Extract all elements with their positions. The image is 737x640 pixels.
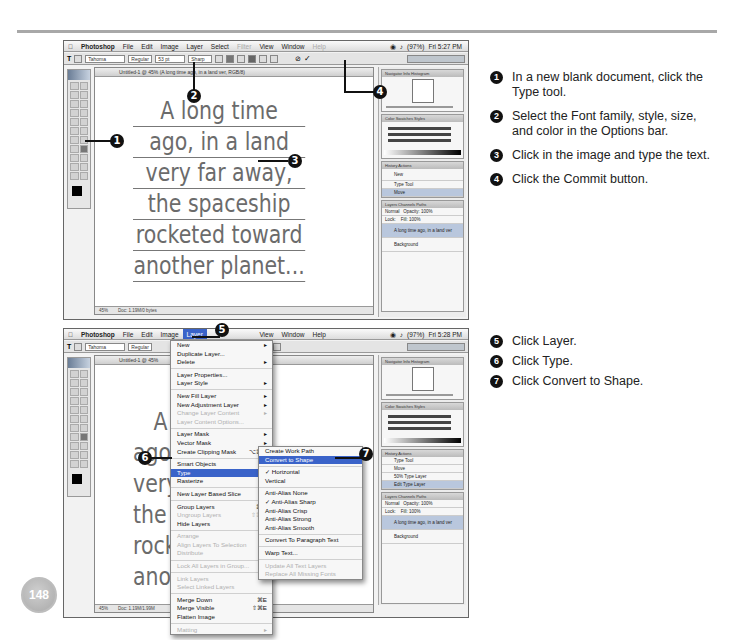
lasso-tool[interactable] [70, 91, 79, 99]
clock[interactable]: Fri 5:27 PM [426, 41, 464, 51]
navigator-tabs[interactable]: Navigator Info Histogram [382, 358, 463, 365]
battery-status[interactable]: (97%) [405, 329, 426, 339]
hand-tool[interactable] [70, 172, 79, 180]
canvas-text[interactable]: A long time ago, in a land very far away… [133, 96, 305, 282]
wifi-icon[interactable]: ◉ [388, 329, 398, 339]
hand-tool[interactable] [70, 460, 79, 468]
green-slider[interactable] [388, 421, 451, 424]
path-selection-tool[interactable] [70, 433, 79, 441]
type-submenu-item-anti-alias-strong[interactable]: Anti-Alias Strong [259, 515, 362, 524]
zoom-slider[interactable] [386, 106, 453, 108]
layer-menu-item-matting[interactable]: Matting▸ [171, 626, 272, 635]
crop-tool[interactable] [70, 388, 79, 396]
layer-menu-item-layer-mask[interactable]: Layer Mask▸ [171, 430, 272, 439]
shape-tool[interactable] [80, 442, 89, 450]
font-size-field[interactable]: 53 pt [155, 55, 185, 63]
type-tool[interactable] [80, 145, 89, 153]
brush-tool[interactable] [80, 109, 89, 117]
menu-edit[interactable]: Edit [137, 329, 156, 339]
volume-icon[interactable]: ♪ [398, 41, 405, 51]
orientation-toggle[interactable] [74, 343, 82, 351]
layer-menu-item-delete[interactable]: Delete▸ [171, 358, 272, 367]
menu-view[interactable]: View [255, 329, 277, 339]
menu-edit[interactable]: Edit [137, 41, 156, 51]
layer-menu-item-ungroup-layers[interactable]: Ungroup Layers⇧⌘G [171, 511, 272, 520]
wifi-icon[interactable]: ◉ [388, 41, 398, 51]
character-palette-button[interactable] [273, 343, 281, 351]
eraser-tool[interactable] [70, 127, 79, 135]
layers-tabs[interactable]: Layers Channels Paths [382, 201, 463, 208]
align-center-button[interactable] [226, 55, 234, 63]
type-submenu-item-anti-alias-crisp[interactable]: Anti-Alias Crisp [259, 507, 362, 516]
type-tool-preset-icon[interactable]: T [67, 343, 71, 350]
color-tabs[interactable]: Color Swatches Styles [382, 403, 463, 410]
type-tool-preset-icon[interactable]: T [67, 55, 71, 62]
anti-alias-field[interactable]: Sharp [188, 55, 212, 63]
eyedropper-tool[interactable] [80, 451, 89, 459]
layer-menu-item-select-linked-layers[interactable]: Select Linked Layers [171, 583, 272, 592]
layer-menu-item-smart-objects[interactable]: Smart Objects▸ [171, 460, 272, 469]
menu-help[interactable]: Help [309, 41, 330, 51]
navigator-tabs[interactable]: Navigator Info Histogram [382, 70, 463, 77]
type-submenu-item-create-work-path[interactable]: Create Work Path [259, 447, 362, 456]
healing-tool[interactable] [70, 397, 79, 405]
type-submenu-item-anti-alias-sharp[interactable]: ✓ Anti-Alias Sharp [259, 498, 362, 507]
blue-slider[interactable] [388, 139, 451, 142]
font-family-field[interactable]: Tahoma [85, 343, 125, 351]
menu-image[interactable]: Image [157, 41, 183, 51]
layer-menu-item-duplicate-layer[interactable]: Duplicate Layer... [171, 350, 272, 359]
menu-file[interactable]: File [119, 41, 137, 51]
history-item[interactable]: Type Tool [382, 457, 463, 465]
align-right-button[interactable] [237, 55, 245, 63]
history-item[interactable]: Edit Type Layer [382, 481, 463, 489]
layer-menu-item-type[interactable]: Type▸ [171, 469, 272, 478]
menu-filter[interactable]: Filter [233, 41, 255, 51]
layer-menu-item-layer-content-options[interactable]: Layer Content Options... [171, 418, 272, 427]
history-brush-tool[interactable] [80, 406, 89, 414]
orientation-toggle[interactable] [74, 55, 82, 63]
crop-tool[interactable] [70, 100, 79, 108]
marquee-tool[interactable] [80, 82, 89, 90]
magic-wand-tool[interactable] [80, 379, 89, 387]
menu-window[interactable]: Window [277, 329, 308, 339]
type-submenu-item-anti-alias-smooth[interactable]: Anti-Alias Smooth [259, 524, 362, 533]
history-item[interactable]: Move [382, 189, 463, 197]
layer-menu-item-new[interactable]: New▸ [171, 341, 272, 350]
character-palette-button[interactable] [270, 55, 278, 63]
layer-menu-item-create-clipping-mask[interactable]: Create Clipping Mask⌥⌘G [171, 448, 272, 457]
color-ramp[interactable] [384, 438, 461, 443]
layer-row-background[interactable]: Background [382, 238, 463, 252]
palette-well[interactable] [407, 55, 465, 63]
lasso-tool[interactable] [70, 379, 79, 387]
history-item[interactable]: Type Tool [382, 181, 463, 189]
shape-tool[interactable] [80, 154, 89, 162]
move-tool[interactable] [70, 370, 79, 378]
history-tabs[interactable]: History Actions [382, 450, 463, 457]
type-submenu-item-warp-text[interactable]: Warp Text... [259, 549, 362, 558]
layer-menu-item-distribute[interactable]: Distribute▸ [171, 549, 272, 558]
dodge-tool[interactable] [80, 424, 89, 432]
layer-menu-item-new-fill-layer[interactable]: New Fill Layer▸ [171, 392, 272, 401]
menu-view[interactable]: View [255, 41, 277, 51]
volume-icon[interactable]: ♪ [398, 329, 405, 339]
align-left-button[interactable] [215, 55, 223, 63]
eraser-tool[interactable] [70, 415, 79, 423]
menu-help[interactable]: Help [309, 329, 330, 339]
eyedropper-tool[interactable] [80, 163, 89, 171]
zoom-level[interactable]: 45% [99, 308, 108, 313]
foreground-color-swatch[interactable] [72, 186, 82, 196]
pen-tool[interactable] [70, 442, 79, 450]
move-tool[interactable] [70, 82, 79, 90]
type-submenu-item-replace-all-missing-fonts[interactable]: Replace All Missing Fonts [259, 570, 362, 579]
commit-checkmark-icon[interactable]: ✓ [304, 54, 311, 63]
menu-window[interactable]: Window [277, 41, 308, 51]
opacity-field[interactable]: Opacity: 100% [403, 209, 432, 214]
layer-menu-item-hide-layers[interactable]: Hide Layers [171, 520, 272, 529]
layer-menu-item-layer-properties[interactable]: Layer Properties... [171, 371, 272, 380]
layer-menu-item-layer-style[interactable]: Layer Style▸ [171, 379, 272, 388]
layer-row-text[interactable]: A long time ago, in a land ver [382, 224, 463, 238]
layer-menu-item-merge-visible[interactable]: Merge Visible⇧⌘E [171, 604, 272, 613]
layer-menu-item-change-layer-content[interactable]: Change Layer Content▸ [171, 409, 272, 418]
battery-status[interactable]: (97%) [405, 41, 426, 51]
layer-menu-item-flatten-image[interactable]: Flatten Image [171, 613, 272, 622]
